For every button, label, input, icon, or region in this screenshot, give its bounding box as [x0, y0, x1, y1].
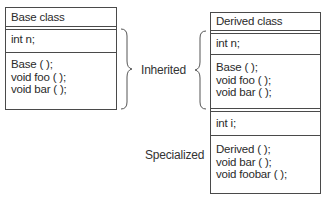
method: Base ( ); — [216, 61, 320, 74]
method: void foobar ( ); — [216, 168, 320, 181]
divider — [6, 26, 116, 30]
base-class-title-text: Base class — [11, 11, 116, 24]
base-class-title: Base class — [6, 11, 116, 24]
divider — [211, 135, 320, 136]
specialized-label: Specialized — [145, 148, 204, 162]
divider — [6, 52, 116, 53]
method: void bar ( ); — [11, 83, 116, 96]
derived-specialized-methods: Derived ( ); void bar ( ); void foobar (… — [211, 143, 320, 181]
derived-inherited-methods: Base ( ); void foo ( ); void bar ( ); — [211, 61, 320, 99]
derived-specialized-fields: int i; — [211, 117, 320, 130]
divider — [211, 30, 320, 34]
method: void foo ( ); — [11, 71, 116, 84]
field: int n; — [216, 37, 320, 50]
brace-right-icon — [120, 28, 134, 110]
derived-inherited-fields: int n; — [211, 37, 320, 50]
method: void bar ( ); — [216, 156, 320, 169]
base-class-box: Base class int n; Base ( ); void foo ( )… — [5, 7, 117, 110]
base-class-fields: int n; — [6, 33, 116, 46]
brace-left-icon — [193, 30, 207, 110]
divider — [211, 108, 320, 112]
field: int n; — [11, 33, 116, 46]
base-class-methods: Base ( ); void foo ( ); void bar ( ); — [6, 58, 116, 96]
derived-class-title: Derived class — [211, 15, 320, 28]
divider — [211, 54, 320, 55]
method: void foo ( ); — [216, 74, 320, 87]
method: void bar ( ); — [216, 86, 320, 99]
inherited-label: Inherited — [141, 63, 186, 77]
derived-class-title-text: Derived class — [216, 15, 320, 28]
method: Base ( ); — [11, 58, 116, 71]
derived-class-box: Derived class int n; Base ( ); void foo … — [210, 12, 321, 194]
field: int i; — [216, 117, 320, 130]
method: Derived ( ); — [216, 143, 320, 156]
